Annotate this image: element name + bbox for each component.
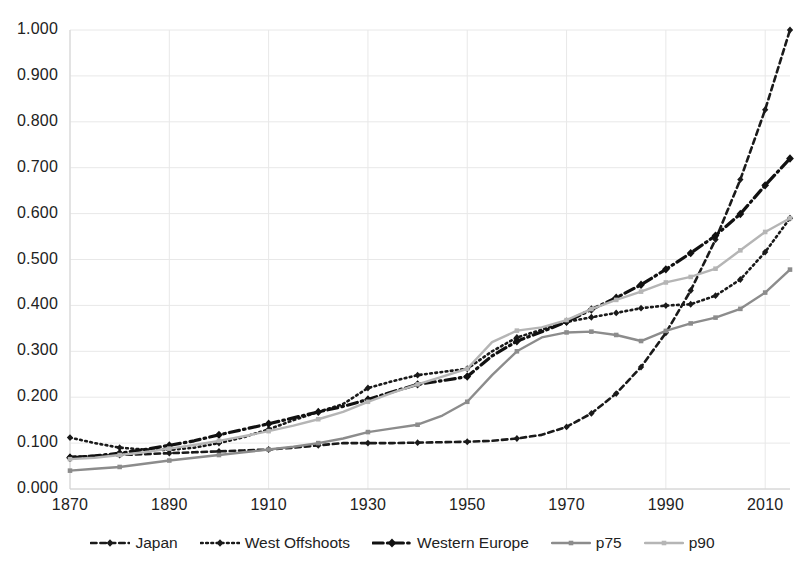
data-point-marker <box>614 333 619 338</box>
data-point-marker <box>68 468 73 473</box>
legend-item-p90[interactable]: p90 <box>644 534 715 552</box>
dotted-line-marker-icon <box>200 536 240 550</box>
x-axis-tick-label: 1870 <box>35 496 105 514</box>
x-axis-tick-label: 1950 <box>432 496 502 514</box>
dashdot-line-marker-icon <box>372 536 412 550</box>
line-chart: 0.0000.1000.2000.3000.4000.5000.6000.700… <box>0 0 805 564</box>
y-axis-tick-label: 0.600 <box>0 204 58 222</box>
y-axis-tick-label: 0.800 <box>0 112 58 130</box>
x-axis-tick-label: 1890 <box>134 496 204 514</box>
data-point-marker <box>415 422 420 427</box>
data-point-marker <box>388 538 396 547</box>
data-point-marker <box>788 267 793 272</box>
y-axis-tick-label: 1.000 <box>0 20 58 38</box>
solid-gray-line-marker-icon <box>551 536 591 550</box>
data-point-marker <box>366 400 371 405</box>
x-axis-tick-label: 1910 <box>234 496 304 514</box>
data-point-marker <box>738 307 743 312</box>
y-axis-tick-label: 0.200 <box>0 387 58 405</box>
legend-item-label: West Offshoots <box>245 534 350 552</box>
legend-item-japan[interactable]: Japan <box>90 534 177 552</box>
y-axis-tick-label: 0.900 <box>0 66 58 84</box>
y-axis-tick-label: 0.400 <box>0 295 58 313</box>
data-point-marker <box>688 275 693 280</box>
data-point-marker <box>664 280 669 285</box>
solid-lightgray-line-marker-icon <box>644 536 684 550</box>
data-point-marker <box>167 446 172 451</box>
data-point-marker <box>788 216 793 221</box>
data-point-marker <box>564 318 569 323</box>
data-point-marker <box>117 465 122 470</box>
legend-item-west-offshoots[interactable]: West Offshoots <box>200 534 350 552</box>
data-point-marker <box>366 430 371 435</box>
data-point-marker <box>465 366 470 371</box>
data-point-marker <box>316 441 321 446</box>
data-point-marker <box>664 329 669 334</box>
data-point-marker <box>217 439 222 444</box>
data-point-marker <box>564 330 569 335</box>
data-point-marker <box>713 315 718 320</box>
chart-legend: JapanWest OffshootsWestern Europep75p90 <box>0 528 805 558</box>
data-point-marker <box>589 329 594 334</box>
data-point-marker <box>68 457 73 462</box>
data-point-marker <box>107 539 114 546</box>
legend-item-label: Western Europe <box>417 534 529 552</box>
x-axis-tick-label: 1990 <box>631 496 701 514</box>
x-axis-tick-label: 1970 <box>532 496 602 514</box>
y-axis-tick-label: 0.100 <box>0 433 58 451</box>
data-point-marker <box>515 328 520 333</box>
data-point-marker <box>117 453 122 458</box>
data-point-marker <box>688 321 693 326</box>
data-point-marker <box>589 307 594 312</box>
x-axis-tick-label: 1930 <box>333 496 403 514</box>
data-point-marker <box>415 382 420 387</box>
data-point-marker <box>614 298 619 303</box>
data-point-marker <box>515 349 520 354</box>
legend-item-label: p75 <box>596 534 622 552</box>
dashed-line-marker-icon <box>90 536 130 550</box>
legend-item-label: Japan <box>135 534 177 552</box>
data-point-marker <box>569 541 574 546</box>
data-point-marker <box>639 289 644 294</box>
y-axis-tick-label: 0.000 <box>0 479 58 497</box>
data-point-marker <box>639 339 644 344</box>
data-point-marker <box>465 400 470 405</box>
legend-item-label: p90 <box>689 534 715 552</box>
data-point-marker <box>316 417 321 422</box>
data-point-marker <box>217 453 222 458</box>
data-point-marker <box>763 290 768 295</box>
data-point-marker <box>167 458 172 463</box>
data-point-marker <box>713 266 718 271</box>
legend-item-p75[interactable]: p75 <box>551 534 622 552</box>
data-point-marker <box>738 248 743 253</box>
y-axis-tick-label: 0.300 <box>0 341 58 359</box>
data-point-marker <box>266 447 271 452</box>
data-point-marker <box>661 541 666 546</box>
data-point-marker <box>763 230 768 235</box>
data-point-marker <box>216 539 223 546</box>
y-axis-tick-label: 0.500 <box>0 250 58 268</box>
legend-item-western-europe[interactable]: Western Europe <box>372 534 529 552</box>
y-axis-tick-label: 0.700 <box>0 158 58 176</box>
data-point-marker <box>266 429 271 434</box>
plot-canvas <box>0 0 805 564</box>
x-axis-tick-label: 2010 <box>730 496 800 514</box>
